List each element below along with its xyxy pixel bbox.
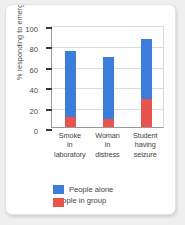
chart-legend: People alonePeople in group (53, 185, 113, 207)
x-axis-category-line: Smoke (51, 131, 89, 140)
bar-people-in-group (103, 119, 114, 127)
x-axis-category-line: Woman (89, 131, 127, 140)
bar-group (52, 27, 90, 127)
x-axis-category-label: Smokeinlaboratory (51, 131, 89, 159)
x-axis-category-line: distress (89, 150, 127, 159)
plot-area: 020406080100 (51, 26, 164, 128)
y-axis-tick-label: 60 (30, 65, 38, 74)
legend-label: People alone (69, 185, 113, 194)
x-axis-labels: SmokeinlaboratoryWomanindistressStudenth… (51, 131, 164, 159)
x-axis-category-line: having (126, 140, 164, 149)
y-axis-tick-label: 20 (30, 106, 38, 115)
y-axis-tick-label: 80 (30, 45, 38, 54)
bar-group (90, 27, 128, 127)
legend-swatch-people-in-group (53, 198, 64, 207)
x-axis-category-line: in (89, 140, 127, 149)
legend-item: People in group (53, 196, 113, 205)
bar-group (127, 27, 165, 127)
x-axis-category-label: Studenthavingseizure (126, 131, 164, 159)
x-axis-category-line: Student (126, 131, 164, 140)
bar-people-alone (103, 57, 114, 127)
chart-card: % responding to emergency 020406080100 S… (5, 4, 176, 215)
legend-swatch-people-alone (53, 185, 64, 194)
x-axis-category-label: Womanindistress (89, 131, 127, 159)
y-axis-tick-label: 40 (30, 86, 38, 95)
x-axis-category-line: in (51, 140, 89, 149)
bar-people-in-group (141, 99, 152, 127)
legend-item: People alone (53, 185, 113, 194)
y-axis-tick-label: 100 (25, 25, 38, 34)
y-axis-title: % responding to emergency (13, 4, 27, 94)
y-axis-tick-label: 0 (34, 127, 38, 136)
bar-people-alone (65, 51, 76, 128)
x-axis-category-line: laboratory (51, 150, 89, 159)
x-axis-category-line: seizure (126, 150, 164, 159)
bar-people-in-group (65, 117, 76, 127)
